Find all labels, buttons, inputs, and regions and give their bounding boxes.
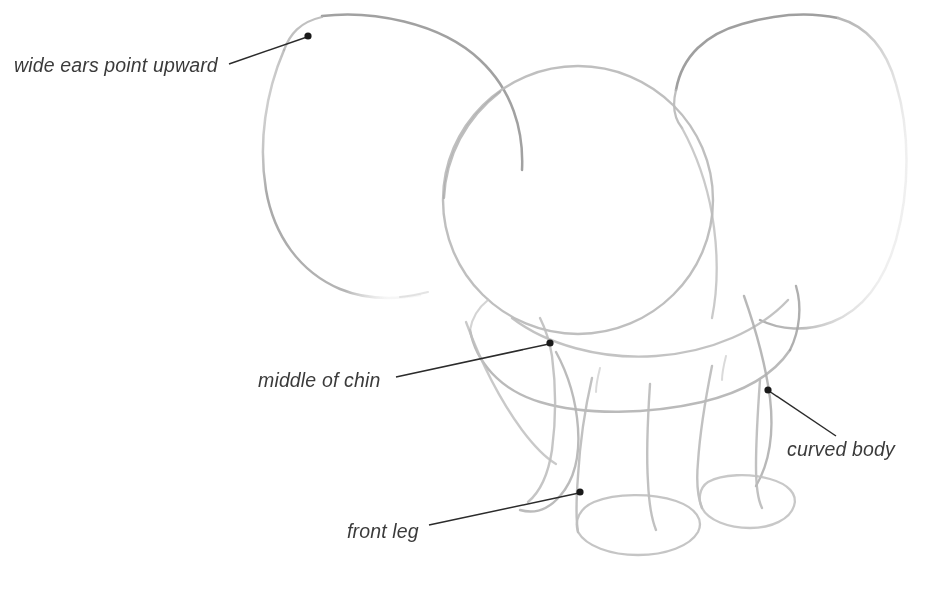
elephant-sketch-svg: wide ears point upward middle of chin cu… (0, 0, 925, 593)
leader-dot-curved-body (764, 386, 771, 393)
leader-dot-wide-ears (304, 32, 311, 39)
annotation-layer: wide ears point upward middle of chin cu… (14, 32, 896, 542)
annotation-curved-body[interactable]: curved body (764, 386, 896, 460)
leader-line-front-leg (429, 493, 579, 525)
leader-line-wide-ears (229, 37, 307, 64)
annotation-label-middle-of-chin: middle of chin (258, 369, 380, 391)
trunk (466, 318, 578, 511)
left-ear (263, 15, 522, 298)
front-leg-left (577, 378, 700, 555)
annotation-label-wide-ears: wide ears point upward (14, 54, 219, 76)
front-leg-right (697, 366, 795, 528)
pencil-sketch-group (263, 15, 907, 555)
leader-line-middle-of-chin (396, 344, 549, 377)
head-circle (443, 66, 713, 334)
leader-dot-middle-of-chin (546, 339, 553, 346)
leader-line-curved-body (769, 391, 836, 436)
construction-ticks (596, 356, 726, 392)
sketch-canvas: wide ears point upward middle of chin cu… (0, 0, 925, 593)
annotation-front-leg[interactable]: front leg (347, 488, 584, 542)
body-oval (470, 286, 799, 486)
leader-dot-front-leg (576, 488, 583, 495)
annotation-wide-ears[interactable]: wide ears point upward (14, 32, 312, 76)
annotation-label-front-leg: front leg (347, 520, 419, 542)
annotation-middle-of-chin[interactable]: middle of chin (258, 339, 554, 391)
annotation-label-curved-body: curved body (787, 438, 896, 460)
